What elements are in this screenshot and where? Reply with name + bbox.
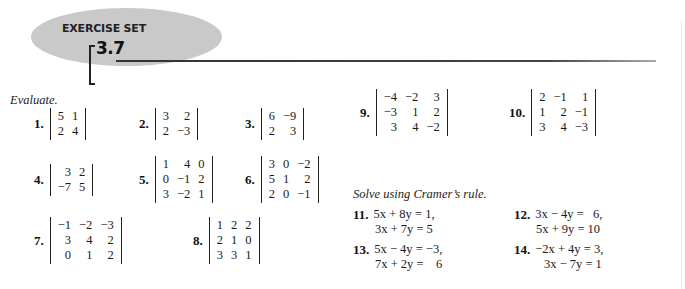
cramer-problem-12: 12.3x − 4y = 6, 5x + 9y = 10 bbox=[514, 207, 602, 237]
matrix-cell: −3 bbox=[96, 218, 117, 233]
matrix-cell: 3 bbox=[54, 233, 75, 248]
matrix-cell: 4 bbox=[401, 120, 422, 135]
matrix-cell: 4 bbox=[173, 157, 194, 172]
equation-line-2: 7x + 2y = 6 bbox=[375, 257, 442, 272]
matrix-cell: −2 bbox=[75, 218, 96, 233]
matrix-cell: 4 bbox=[75, 233, 96, 248]
determinant-matrix: −4−23−31234−2 bbox=[376, 89, 448, 136]
matrix-cell: 2 bbox=[265, 124, 279, 139]
determinant-matrix: 1400−123−21 bbox=[155, 156, 213, 203]
problem-number: 4. bbox=[34, 172, 44, 188]
matrix-cell: 5 bbox=[265, 172, 279, 187]
determinant-problem-8: 8.122210331 bbox=[193, 217, 260, 264]
determinant-problem-7: 7.−1−2−3342012 bbox=[34, 217, 122, 264]
matrix-cell: 3 bbox=[227, 248, 241, 263]
determinant-matrix: 5124 bbox=[50, 108, 87, 140]
matrix-cell: 3 bbox=[159, 109, 173, 124]
matrix-cell: 3 bbox=[54, 165, 75, 180]
matrix-cell: 1 bbox=[68, 109, 82, 124]
matrix-cell: −7 bbox=[54, 180, 75, 195]
determinant-problem-3: 3.6−923 bbox=[245, 108, 304, 140]
cramer-instruction: Solve using Cramer’s rule. bbox=[353, 187, 487, 202]
matrix-cell: −1 bbox=[571, 105, 592, 120]
matrix-cell: 1 bbox=[227, 233, 241, 248]
matrix-cell: 0 bbox=[279, 187, 293, 202]
matrix-cell: 2 bbox=[173, 109, 194, 124]
problem-number: 6. bbox=[245, 172, 255, 188]
cramer-problem-14: 14.−2x + 4y = 3, 3x − 7y = 1 bbox=[514, 242, 603, 272]
determinant-matrix: 32−75 bbox=[50, 164, 94, 196]
matrix-cell: 2 bbox=[194, 172, 208, 187]
matrix-cell: 3 bbox=[380, 120, 401, 135]
page-edge bbox=[681, 20, 682, 289]
determinant-matrix: 122210331 bbox=[209, 217, 260, 264]
cramer-problem-13: 13.5x − 4y = −3, 7x + 2y = 6 bbox=[353, 242, 442, 272]
equation-line-1: 3x − 4y = 6, bbox=[535, 207, 602, 222]
matrix-cell: 3 bbox=[279, 124, 300, 139]
matrix-cell: −3 bbox=[173, 124, 194, 139]
determinant-problem-6: 6.30−251220−1 bbox=[245, 156, 319, 203]
matrix-cell: 2 bbox=[550, 105, 571, 120]
matrix-cell: 5 bbox=[75, 180, 89, 195]
matrix-cell: 2 bbox=[265, 187, 279, 202]
header-rule bbox=[116, 60, 656, 62]
matrix-cell: −2 bbox=[401, 90, 422, 105]
matrix-cell: 0 bbox=[194, 157, 208, 172]
matrix-cell: −3 bbox=[571, 120, 592, 135]
problem-number: 7. bbox=[34, 233, 44, 249]
matrix-cell: 2 bbox=[227, 218, 241, 233]
matrix-cell: 3 bbox=[265, 157, 279, 172]
problem-number: 8. bbox=[193, 233, 203, 249]
matrix-cell: 3 bbox=[422, 90, 443, 105]
determinant-problem-10: 10.2−1112−134−3 bbox=[509, 89, 596, 136]
matrix-cell: 1 bbox=[75, 248, 96, 263]
problem-number: 11. bbox=[353, 207, 369, 222]
matrix-cell: −1 bbox=[54, 218, 75, 233]
matrix-cell: 2 bbox=[159, 124, 173, 139]
matrix-cell: −1 bbox=[173, 172, 194, 187]
determinant-matrix: 322−3 bbox=[155, 108, 199, 140]
problem-number: 12. bbox=[514, 207, 530, 222]
determinant-matrix: −1−2−3342012 bbox=[50, 217, 122, 264]
matrix-cell: 1 bbox=[571, 90, 592, 105]
determinant-matrix: 6−923 bbox=[261, 108, 305, 140]
matrix-cell: 4 bbox=[550, 120, 571, 135]
evaluate-instruction: Evaluate. bbox=[10, 93, 58, 108]
problem-number: 13. bbox=[353, 242, 369, 257]
problem-number: 1. bbox=[34, 116, 44, 132]
matrix-cell: 2 bbox=[535, 90, 549, 105]
matrix-cell: 0 bbox=[241, 233, 255, 248]
matrix-cell: 2 bbox=[213, 233, 227, 248]
matrix-cell: 2 bbox=[96, 248, 117, 263]
equation-line-2: 3x + 7y = 5 bbox=[375, 222, 433, 237]
matrix-cell: 2 bbox=[96, 233, 117, 248]
determinant-problem-4: 4.32−75 bbox=[34, 164, 93, 196]
determinant-problem-1: 1.5124 bbox=[34, 108, 86, 140]
matrix-cell: 1 bbox=[194, 187, 208, 202]
equation-line-1: 5x + 8y = 1, bbox=[374, 207, 435, 222]
determinant-problem-2: 2.322−3 bbox=[139, 108, 198, 140]
equation-line-1: −2x + 4y = 3, bbox=[535, 242, 603, 257]
problem-number: 14. bbox=[514, 242, 530, 257]
matrix-cell: 2 bbox=[54, 124, 68, 139]
matrix-cell: 1 bbox=[241, 248, 255, 263]
matrix-cell: 3 bbox=[213, 248, 227, 263]
matrix-cell: 1 bbox=[213, 218, 227, 233]
matrix-cell: 0 bbox=[279, 157, 293, 172]
matrix-cell: 2 bbox=[75, 165, 89, 180]
determinant-matrix: 2−1112−134−3 bbox=[531, 89, 596, 136]
header-oval bbox=[31, 8, 222, 66]
equation-line-2: 5x + 9y = 10 bbox=[536, 222, 600, 237]
matrix-cell: −2 bbox=[422, 120, 443, 135]
matrix-cell: 6 bbox=[265, 109, 279, 124]
problem-number: 3. bbox=[245, 116, 255, 132]
matrix-cell: 0 bbox=[54, 248, 75, 263]
matrix-cell: −1 bbox=[293, 187, 314, 202]
equation-line-1: 5x − 4y = −3, bbox=[374, 242, 442, 257]
equation-line-2: 3x − 7y = 1 bbox=[544, 257, 602, 272]
matrix-cell: 1 bbox=[159, 157, 173, 172]
section-bracket bbox=[89, 45, 95, 85]
matrix-cell: −9 bbox=[279, 109, 300, 124]
matrix-cell: −1 bbox=[550, 90, 571, 105]
matrix-cell: 2 bbox=[422, 105, 443, 120]
